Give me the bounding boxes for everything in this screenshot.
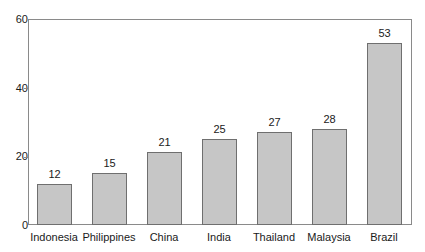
bar-value-label: 25	[190, 124, 249, 135]
bar-group-thailand: 27	[257, 19, 292, 225]
bar-value-label: 28	[300, 114, 359, 125]
bar-brazil	[367, 43, 402, 225]
x-tick-label-brazil: Brazil	[349, 231, 419, 243]
bar-group-indonesia: 12	[37, 19, 72, 225]
y-tick-label-0: 0	[6, 220, 28, 231]
y-axis: 60 40 20 0	[0, 0, 28, 252]
bar-group-malaysia: 28	[312, 19, 347, 225]
bar-group-philippines: 15	[92, 19, 127, 225]
bar-group-india: 25	[202, 19, 237, 225]
bar-group-brazil: 53	[367, 19, 402, 225]
bar-group-china: 21	[147, 19, 182, 225]
bar-thailand	[257, 132, 292, 225]
x-axis: Indonesia Philippines China India Thaila…	[28, 231, 412, 247]
bar-indonesia	[37, 184, 72, 225]
y-tick-label-60: 60	[6, 14, 28, 25]
bar-chart: 60 40 20 0 12 15 21 25 27 28	[0, 0, 425, 252]
bar-value-label: 27	[245, 117, 304, 128]
bar-value-label: 15	[80, 158, 139, 169]
bar-value-label: 21	[135, 137, 194, 148]
bar-china	[147, 152, 182, 225]
bar-value-label: 12	[25, 169, 84, 180]
bar-india	[202, 139, 237, 225]
bars-layer: 12 15 21 25 27 28 53	[28, 19, 412, 225]
bar-philippines	[92, 173, 127, 225]
bar-malaysia	[312, 129, 347, 225]
bar-value-label: 53	[355, 28, 414, 39]
